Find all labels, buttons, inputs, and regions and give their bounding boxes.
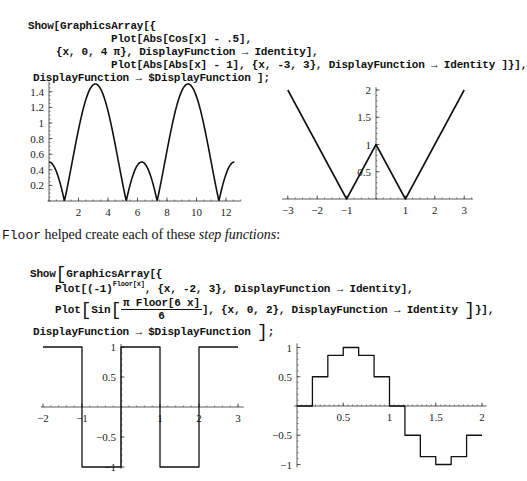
x-tick-label: −1 <box>341 204 353 216</box>
x-tick-label: 2 <box>432 204 438 216</box>
x-tick-label: 1 <box>403 204 409 216</box>
x-tick-label: 10 <box>191 206 203 218</box>
x-tick-label: 4 <box>105 206 111 218</box>
y-tick-label: 1 <box>39 117 45 129</box>
y-tick-label: 1.5 <box>357 111 371 123</box>
y-tick-label: 0.4 <box>30 164 44 176</box>
y-tick-label: 0.8 <box>30 133 44 145</box>
plot-square-wave: −2−1123−1−0.50.51 <box>37 341 244 473</box>
plot-abs-abs: −3−2−11230.511.52 <box>282 84 473 216</box>
x-tick-label: −3 <box>282 204 294 216</box>
x-tick-label: 12 <box>221 206 232 218</box>
x-tick-label: 6 <box>135 206 141 218</box>
x-tick-label: −2 <box>311 204 323 216</box>
x-tick-label: 2 <box>479 411 485 423</box>
y-tick-label: 2 <box>366 84 372 96</box>
y-tick-label: 1.4 <box>30 86 44 98</box>
plot-sin-step: 0.511.52−1−0.50.51 <box>272 342 487 471</box>
y-tick-label: 0.5 <box>102 371 116 383</box>
y-tick-label: −0.5 <box>96 431 116 443</box>
y-tick-label: 0.6 <box>30 148 44 160</box>
x-tick-label: 8 <box>164 206 170 218</box>
x-tick-label: 2 <box>76 206 82 218</box>
x-tick-label: 1.5 <box>429 411 443 423</box>
x-tick-label: 3 <box>461 204 467 216</box>
y-tick-label: 1.2 <box>30 101 44 113</box>
x-tick-label: 3 <box>235 412 241 424</box>
y-tick-label: −0.5 <box>272 429 292 441</box>
x-tick-label: −2 <box>37 412 49 424</box>
x-tick-label: 0.5 <box>336 411 350 423</box>
plot-abs-cos: 246810120.20.40.60.811.21.4 <box>30 82 241 218</box>
y-tick-label: 1 <box>287 342 293 354</box>
y-tick-label: 0.2 <box>30 179 44 191</box>
y-tick-label: 0.5 <box>278 371 292 383</box>
plot-curve <box>49 84 234 200</box>
y-tick-label: −1 <box>280 459 292 471</box>
x-tick-label: 1 <box>387 411 393 423</box>
y-tick-label: 1 <box>366 139 372 151</box>
y-tick-label: 1 <box>111 341 117 353</box>
